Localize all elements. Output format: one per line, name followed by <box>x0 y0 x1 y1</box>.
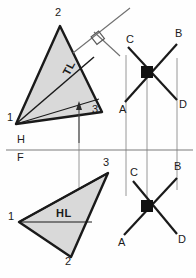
horizontal-line-label: HL <box>56 208 72 219</box>
top-vertex-label-1: 1 <box>7 112 13 123</box>
top-label-d: D <box>179 99 187 110</box>
geometry-svg <box>0 0 196 278</box>
front-vertex-label-3: 3 <box>103 157 109 168</box>
fold-label-f: F <box>17 152 24 163</box>
bottom-line-cd <box>133 181 177 234</box>
bottom-label-a: A <box>118 237 125 248</box>
top-vertex-label-3: 3 <box>92 104 98 115</box>
bottom-label-b: B <box>174 161 181 172</box>
auxiliary-oblique-line <box>73 8 130 53</box>
bottom-crossing-group <box>124 178 177 235</box>
top-label-c: C <box>126 34 134 45</box>
top-label-b: B <box>175 28 182 39</box>
top-label-a: A <box>119 104 126 115</box>
front-vertex-label-2: 2 <box>65 256 71 267</box>
bottom-intersection-node <box>141 200 153 212</box>
bottom-label-d: D <box>178 234 186 245</box>
top-view-group <box>16 8 130 143</box>
fold-label-h: H <box>17 134 25 145</box>
top-intersection-node <box>141 66 153 78</box>
top-vertex-label-2: 2 <box>55 7 61 18</box>
top-crossing-group <box>125 44 177 102</box>
front-vertex-label-1: 1 <box>8 211 14 222</box>
bottom-label-c: C <box>130 167 138 178</box>
drawing-canvas: H F 1 2 3 TL 1 3 2 HL C B A D C B A D <box>0 0 196 278</box>
